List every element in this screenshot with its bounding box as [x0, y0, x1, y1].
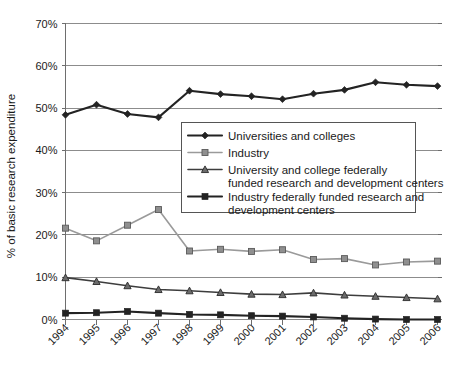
line-chart: 0%10%20%30%40%50%60%70% 1994199519961997…	[0, 0, 451, 372]
data-point-marker	[125, 222, 131, 228]
data-point-marker	[218, 312, 224, 318]
data-point-marker	[404, 259, 410, 265]
data-point-marker	[202, 194, 208, 200]
data-point-marker	[341, 86, 348, 93]
data-point-marker	[249, 248, 255, 254]
y-axis-title: % of basic research expenditure	[5, 94, 17, 258]
legend-label: Industry federally funded research and	[228, 191, 424, 203]
data-point-marker	[373, 316, 379, 322]
x-tick-label: 2005	[386, 321, 412, 347]
y-tick-label: 30%	[35, 187, 57, 199]
data-point-marker	[217, 91, 224, 98]
data-point-marker	[187, 248, 193, 254]
legend-label: Universities and colleges	[228, 130, 355, 142]
data-point-marker	[187, 311, 193, 317]
data-point-marker	[63, 225, 69, 231]
data-point-marker	[248, 93, 255, 100]
x-tick-label: 1996	[107, 321, 133, 347]
data-point-marker	[63, 310, 69, 316]
data-point-marker	[310, 90, 317, 97]
x-tick-label: 2006	[417, 321, 443, 347]
x-tick-label: 2001	[262, 321, 288, 347]
legend-label: University and college federally	[228, 164, 387, 176]
data-point-marker	[156, 310, 162, 316]
data-point-marker	[202, 150, 208, 156]
data-point-marker	[342, 315, 348, 321]
data-point-marker	[311, 314, 317, 320]
x-tick-label: 2003	[324, 321, 350, 347]
data-point-marker	[403, 81, 410, 88]
x-tick-label: 2002	[293, 321, 319, 347]
data-point-marker	[372, 79, 379, 86]
x-tick-label: 1999	[200, 321, 226, 347]
x-tick-label: 1995	[76, 321, 102, 347]
x-tick-labels-group: 1994199519961997199819992000200120022003…	[45, 321, 443, 347]
data-point-marker	[93, 101, 100, 108]
y-tick-label: 0%	[42, 314, 58, 326]
x-tick-label: 1998	[169, 321, 195, 347]
series-line	[66, 210, 438, 265]
data-point-marker	[94, 238, 100, 244]
data-point-marker	[311, 256, 317, 262]
x-tick-label: 2000	[231, 321, 257, 347]
data-point-marker	[280, 247, 286, 253]
y-tick-label: 70%	[35, 18, 57, 30]
chart-legend: Universities and collegesIndustryUnivers…	[182, 123, 444, 217]
data-point-marker	[404, 317, 410, 323]
y-tick-labels-group: 0%10%20%30%40%50%60%70%	[35, 18, 57, 326]
data-point-marker	[280, 313, 286, 319]
y-tick-label: 60%	[35, 60, 57, 72]
data-point-marker	[373, 262, 379, 268]
data-point-marker	[156, 207, 162, 213]
data-point-marker	[124, 111, 131, 118]
data-point-marker	[249, 313, 255, 319]
data-point-marker	[125, 308, 131, 314]
chart-container: 0%10%20%30%40%50%60%70% 1994199519961997…	[0, 0, 451, 372]
series-1	[62, 79, 441, 121]
series-3	[62, 274, 441, 302]
y-tick-label: 20%	[35, 229, 57, 241]
data-point-marker	[218, 246, 224, 252]
data-point-marker	[435, 258, 441, 264]
x-tick-label: 1997	[138, 321, 164, 347]
data-point-marker	[434, 83, 441, 90]
data-point-marker	[62, 111, 69, 118]
legend-label-line2: development centers	[228, 204, 335, 216]
y-tick-label: 50%	[35, 102, 57, 114]
data-point-marker	[342, 256, 348, 262]
legend-label: Industry	[228, 147, 269, 159]
y-tick-label: 10%	[35, 271, 57, 283]
x-tick-label: 2004	[355, 321, 381, 347]
data-point-marker	[435, 317, 441, 323]
y-tick-label: 40%	[35, 144, 57, 156]
data-point-marker	[94, 310, 100, 316]
data-point-marker	[279, 96, 286, 103]
legend-label-line2: funded research and development centers	[228, 177, 444, 189]
